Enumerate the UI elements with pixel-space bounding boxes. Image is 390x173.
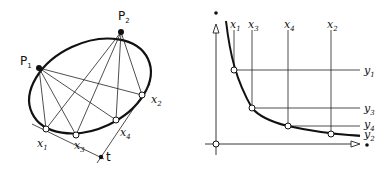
point-x1-y1 xyxy=(231,67,237,73)
chord-p1-x1 xyxy=(39,68,46,129)
label-y1: y1 xyxy=(363,64,375,79)
y-axis-arrow-icon xyxy=(213,24,219,33)
point-x3-y3 xyxy=(249,105,255,111)
point-p1 xyxy=(36,65,42,71)
point-x3 xyxy=(73,132,79,138)
label-p1: P1 xyxy=(20,54,32,70)
x-axis-arrow-icon xyxy=(351,141,360,147)
label-y3: y3 xyxy=(363,102,375,117)
point-x1 xyxy=(43,126,49,132)
point-x4 xyxy=(113,117,119,123)
chord-p1-x3 xyxy=(39,68,76,135)
chord-p2-x2 xyxy=(121,32,142,95)
hyperbola-figure: x1 x3 x4 x2 y1 y3 y4 y2 xyxy=(205,11,375,155)
label-x4: x4 xyxy=(120,126,131,141)
label-p2: P2 xyxy=(118,9,130,25)
ellipse-curve xyxy=(14,20,166,152)
point-x2 xyxy=(139,92,145,98)
ellipse-figure: P1 P2 x1 x3 x4 x2 t xyxy=(14,9,166,164)
y-axis-infinity-point xyxy=(214,11,218,15)
label-x3: x3 xyxy=(74,139,85,154)
chord-p2-x4 xyxy=(116,32,121,120)
diagram-canvas: P1 P2 x1 x3 x4 x2 t xyxy=(0,0,390,173)
label-top-x4: x4 xyxy=(284,18,295,33)
origin-point xyxy=(213,141,219,147)
label-x1: x1 xyxy=(37,137,48,152)
point-p2 xyxy=(118,29,124,35)
label-top-x3: x3 xyxy=(248,18,259,33)
chords-p2 xyxy=(46,32,142,135)
label-x2: x2 xyxy=(151,93,162,108)
point-t xyxy=(99,155,103,159)
x-axis-infinity-point xyxy=(365,143,369,147)
point-x2-y2 xyxy=(328,131,334,137)
label-top-x1: x1 xyxy=(230,18,241,33)
label-t: t xyxy=(106,150,111,164)
point-x4-y4 xyxy=(285,123,291,129)
label-top-x2: x2 xyxy=(327,18,338,33)
hyperbola-curve xyxy=(226,21,360,136)
chord-p1-x4 xyxy=(39,68,116,120)
